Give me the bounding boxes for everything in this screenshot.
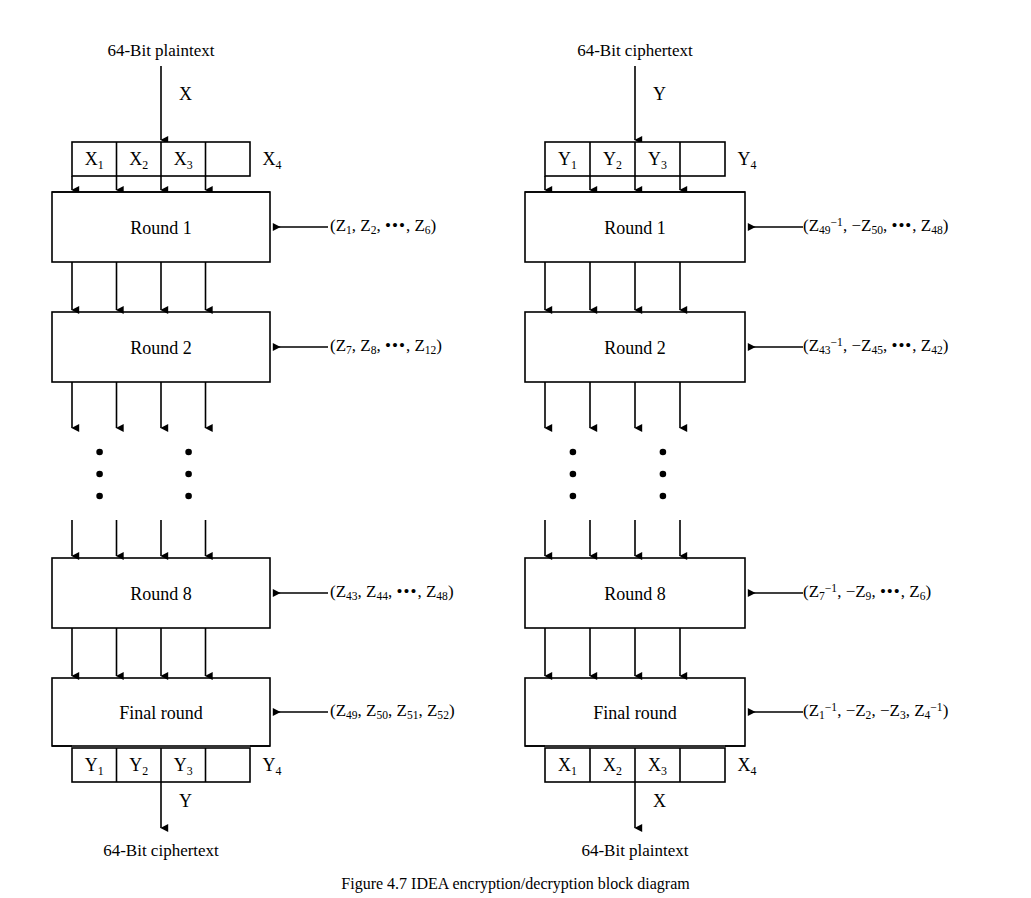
subkey-label: (Z1, Z2, •••, Z6) xyxy=(330,217,436,237)
round-label: Round 1 xyxy=(130,219,192,237)
subblock-label: Y1 xyxy=(558,150,577,171)
idea-block-diagram: 64-Bit plaintextXX1X2X3X4Round 1(Z1, Z2,… xyxy=(0,0,1031,898)
subblock-label: X2 xyxy=(603,756,622,777)
round-label: Round 8 xyxy=(604,585,666,603)
subblock-label: X4 xyxy=(263,150,282,171)
subkey-label: (Z7, Z8, •••, Z12) xyxy=(330,337,442,357)
flow-variable: Y xyxy=(653,85,666,103)
figure-caption: Figure 4.7 IDEA encryption/decryption bl… xyxy=(341,876,689,892)
subkey-label: (Z43−1, −Z45, •••, Z42) xyxy=(803,337,948,357)
subblock-label: Y4 xyxy=(263,756,282,777)
round-label: Final round xyxy=(593,704,677,722)
subkey-label: (Z49−1, −Z50, •••, Z48) xyxy=(803,217,948,237)
flow-variable: X xyxy=(179,85,192,103)
round-label: Round 1 xyxy=(604,219,666,237)
diagram-lines xyxy=(0,0,1031,898)
subkey-label: (Z1−1, −Z2, −Z3, Z4−1) xyxy=(803,702,948,722)
subblock-label: Y4 xyxy=(738,150,757,171)
subblock-label: Y1 xyxy=(85,756,104,777)
subkey-label: (Z7−1, −Z9, •••, Z6) xyxy=(803,583,931,603)
round-label: Final round xyxy=(119,704,203,722)
subkey-label: (Z43, Z44, •••, Z48) xyxy=(330,583,454,603)
round-label: Round 2 xyxy=(604,339,666,357)
flow-variable: Y xyxy=(179,792,192,810)
subblock-label: X4 xyxy=(738,756,757,777)
subblock-label: Y2 xyxy=(603,150,622,171)
round-label: Round 8 xyxy=(130,585,192,603)
endpoint-text: 64-Bit ciphertext xyxy=(103,842,219,859)
subkey-label: (Z49, Z50, Z51, Z52) xyxy=(330,702,455,722)
subblock-label: X1 xyxy=(85,150,104,171)
endpoint-text: 64-Bit plaintext xyxy=(581,842,688,859)
subblock-label: X3 xyxy=(648,756,667,777)
round-label: Round 2 xyxy=(130,339,192,357)
subblock-label: X3 xyxy=(174,150,193,171)
flow-variable: X xyxy=(653,792,666,810)
subblock-label: Y2 xyxy=(129,756,148,777)
subblock-label: X2 xyxy=(129,150,148,171)
endpoint-text: 64-Bit plaintext xyxy=(107,42,214,59)
subblock-label: X1 xyxy=(558,756,577,777)
subblock-label: Y3 xyxy=(174,756,193,777)
endpoint-text: 64-Bit ciphertext xyxy=(577,42,693,59)
subblock-label: Y3 xyxy=(648,150,667,171)
